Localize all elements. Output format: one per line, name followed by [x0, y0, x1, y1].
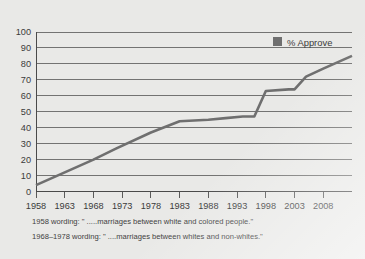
x-tick-label-1983: 1983: [169, 201, 189, 211]
gridlines: [36, 32, 352, 176]
series-line-percent-approve: [36, 56, 352, 185]
x-tick-label-1973: 1973: [112, 201, 132, 211]
y-tick-label-60: 60: [21, 91, 31, 101]
y-axis-tick-labels: 0102030405060708090100: [16, 27, 31, 197]
chart-figure: 0102030405060708090100 19581963196819731…: [0, 0, 365, 259]
x-axis-tickmarks: [36, 192, 323, 199]
y-tick-label-0: 0: [26, 187, 31, 197]
x-tick-label-1968: 1968: [83, 201, 103, 211]
legend: % Approve: [273, 37, 332, 48]
x-tick-label-1978: 1978: [141, 201, 161, 211]
footnote-line-2: 1968–1978 wording: " ....marriages betwe…: [32, 232, 263, 241]
x-tick-label-2003: 2003: [284, 201, 304, 211]
x-tick-label-1958: 1958: [26, 201, 46, 211]
approval-line-chart: 0102030405060708090100 19581963196819731…: [0, 0, 365, 259]
x-tick-label-1993: 1993: [227, 201, 247, 211]
y-tick-label-70: 70: [21, 75, 31, 85]
legend-swatch-percent-approve: [273, 37, 282, 46]
legend-label-percent-approve: % Approve: [287, 37, 332, 48]
x-tick-label-1988: 1988: [198, 201, 218, 211]
x-tick-label-1963: 1963: [55, 201, 75, 211]
y-tick-label-50: 50: [21, 107, 31, 117]
y-tick-label-80: 80: [21, 59, 31, 69]
y-tick-label-20: 20: [21, 155, 31, 165]
x-tick-label-1998: 1998: [256, 201, 276, 211]
x-axis-tick-labels: 1958196319681973197819831988199319982003…: [26, 201, 334, 211]
y-tick-label-100: 100: [16, 27, 31, 37]
y-tick-label-10: 10: [21, 171, 31, 181]
footnote-line-1: 1958 wording: " .....marriages between w…: [32, 217, 253, 226]
y-tick-label-40: 40: [21, 123, 31, 133]
y-tick-label-30: 30: [21, 139, 31, 149]
x-tick-label-2008: 2008: [313, 201, 333, 211]
footnotes: 1958 wording: " .....marriages between w…: [32, 217, 263, 241]
y-tick-label-90: 90: [21, 43, 31, 53]
